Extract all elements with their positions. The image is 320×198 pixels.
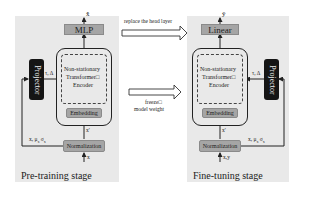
right-stats-sigma-sub: x bbox=[263, 139, 265, 144]
left-stats-label: x, μx σx bbox=[29, 137, 46, 144]
freeze-label-line-2: model weight bbox=[134, 107, 164, 113]
left-encoder-line-3: Encoder bbox=[73, 82, 93, 88]
right-input-label: x,y bbox=[223, 155, 230, 161]
left-input-label: x bbox=[87, 155, 90, 161]
left-output-label: x̂ bbox=[86, 11, 90, 18]
left-head-label: MLP bbox=[75, 25, 94, 35]
right-linear-head: Linear bbox=[201, 24, 239, 35]
left-projector: Projector bbox=[29, 59, 44, 100]
left-stats-sigma-sub: x bbox=[44, 139, 46, 144]
right-embedding-box: Embedding bbox=[202, 108, 238, 118]
left-mlp-head: MLP bbox=[64, 24, 104, 35]
left-encoder-line-1: Non-stationary bbox=[64, 66, 100, 72]
right-normalized-label: x' bbox=[222, 128, 226, 134]
right-head-label: Linear bbox=[208, 25, 231, 35]
replace-head-label: replace the head layer bbox=[124, 19, 172, 25]
left-stats-mu-sub: x bbox=[37, 139, 39, 144]
left-normalized-label: x' bbox=[86, 128, 90, 134]
right-normalization-box: Normalization bbox=[199, 140, 241, 152]
right-stats-mu-sub: x bbox=[256, 139, 258, 144]
left-encoder-line-2: Transformer□ bbox=[66, 74, 99, 80]
left-normalization-box: Normalization bbox=[63, 140, 105, 152]
right-stats-label: x, μx σx bbox=[248, 137, 265, 144]
left-embedding-label: Embedding bbox=[70, 110, 98, 116]
freeze-weight-arrow bbox=[129, 85, 181, 99]
right-output-label: ŷ bbox=[222, 11, 226, 18]
replace-head-arrow bbox=[122, 26, 187, 40]
right-embedding-label: Embedding bbox=[206, 110, 234, 116]
left-stage-label: Pre-training stage bbox=[21, 171, 92, 181]
right-stage-label: Fine-tuning stage bbox=[193, 171, 263, 181]
left-projector-label: Projector bbox=[32, 65, 41, 94]
right-encoder-line-3: Encoder bbox=[209, 82, 229, 88]
right-encoder-line-2: Transformer□ bbox=[202, 74, 235, 80]
right-projector-label: Projector bbox=[267, 65, 276, 94]
right-projector-output-label: τ, Δ bbox=[252, 71, 260, 77]
left-normalization-label: Normalization bbox=[67, 143, 102, 149]
left-embedding-box: Embedding bbox=[66, 108, 102, 118]
right-normalization-label: Normalization bbox=[203, 143, 238, 149]
right-projector: Projector bbox=[264, 59, 279, 100]
right-encoder-line-1: Non-stationary bbox=[200, 66, 236, 72]
left-projector-output-label: τ, Δ bbox=[45, 71, 53, 77]
freeze-label-line-1: freeze□ bbox=[145, 100, 162, 106]
